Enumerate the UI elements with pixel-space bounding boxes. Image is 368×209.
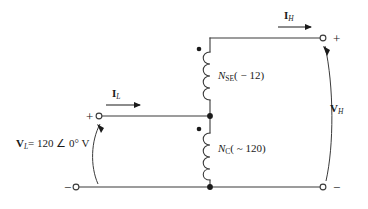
junction-center-tap — [207, 113, 213, 119]
terminal-high-positive[interactable] — [320, 35, 326, 41]
current-arrow-low-side — [106, 102, 141, 108]
label-series-winding-turns: ( − 12) — [234, 69, 264, 81]
voltage-arc-low-side — [93, 124, 104, 184]
label-series-winding: NSE( − 12) — [218, 70, 264, 82]
label-high-side-current: IH — [284, 10, 294, 22]
circuit-schematic-svg — [0, 0, 368, 209]
polarity-sign-high-negative: − — [333, 181, 340, 194]
label-common-winding: NC( ~ 120) — [218, 143, 266, 155]
label-high-side-voltage: VH — [330, 103, 343, 115]
terminal-high-negative[interactable] — [320, 184, 326, 190]
label-common-winding-turns: ( ~ 120) — [230, 142, 265, 154]
polarity-dot-series-winding — [197, 47, 202, 52]
common-winding-coil — [203, 133, 210, 180]
polarity-sign-low-negative: − — [64, 181, 71, 194]
label-low-side-voltage: VL= 120 ∠ 0° V — [16, 138, 89, 150]
terminal-low-positive[interactable] — [96, 113, 102, 119]
polarity-sign-low-positive: + — [86, 110, 93, 123]
polarity-sign-high-positive: + — [333, 32, 340, 45]
circuit-diagram: VL= 120 ∠ 0° V VH IL IH NSE( − 12) NC( ~… — [0, 0, 368, 209]
junction-bottom-rail — [207, 184, 213, 190]
label-low-side-voltage-equation: = 120 ∠ 0° V — [28, 137, 89, 149]
terminal-low-negative[interactable] — [73, 184, 79, 190]
polarity-dot-common-winding — [197, 127, 202, 132]
label-low-side-current: IL — [112, 88, 120, 100]
series-winding-coil — [203, 52, 210, 100]
current-arrow-high-side — [278, 24, 312, 30]
